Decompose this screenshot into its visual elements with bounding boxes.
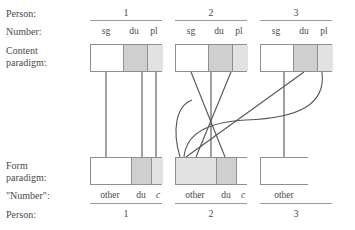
paradigm-diagram: Person: Number: Content paradigm: Form p… (0, 0, 355, 230)
link-p2-arc-to-other (176, 100, 192, 157)
paradigm-link-lines (0, 0, 355, 230)
link-p3-pl-to-p2-other (184, 72, 322, 157)
link-p2-pl-to-other (196, 72, 231, 157)
link-p2-sg-to-c (191, 72, 225, 157)
